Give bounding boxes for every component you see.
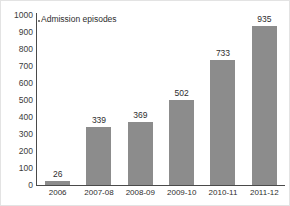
x-axis-tick-labels: 20062007-082008-092009-102010-112011-12 [1,1,290,206]
x-axis-tick-label: 2011-12 [244,188,285,197]
x-axis-tick-label: 2006 [37,188,78,197]
x-axis-tick-label: 2007-08 [78,188,119,197]
x-axis-tick-label: 2009-10 [161,188,202,197]
x-axis-tick-label: 2010-11 [202,188,243,197]
bar-chart: Admission episodes 100090080070060050040… [0,0,290,206]
x-axis-tick-label: 2008-09 [120,188,161,197]
